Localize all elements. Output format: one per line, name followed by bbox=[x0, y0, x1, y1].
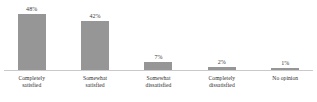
bars-container: 48% 42% 7% 2% 1% bbox=[0, 0, 317, 70]
category-label-completely-dissatisfied: Completely dissatisfied bbox=[190, 71, 253, 90]
bar-value-label: 7% bbox=[154, 54, 162, 61]
category-label-line1: No opinion bbox=[254, 75, 317, 82]
category-label-line2: satisfied bbox=[63, 82, 126, 89]
category-label-line1: Completely bbox=[190, 75, 253, 82]
bar-chart: 48% 42% 7% 2% 1% Complet bbox=[0, 0, 317, 102]
category-label-line1: Completely bbox=[0, 75, 63, 82]
category-label-completely-satisfied: Completely satisfied bbox=[0, 71, 63, 90]
category-label-no-opinion: No opinion bbox=[254, 71, 317, 82]
bar-rect[interactable] bbox=[81, 21, 109, 70]
category-label-somewhat-dissatisfied: Somewhat dissatisfied bbox=[127, 71, 190, 90]
category-label-somewhat-satisfied: Somewhat satisfied bbox=[63, 71, 126, 90]
bar-value-label: 2% bbox=[218, 59, 226, 66]
category-label-line2: dissatisfied bbox=[190, 82, 253, 89]
bar-group-completely-dissatisfied[interactable]: 2% bbox=[190, 0, 253, 70]
plot-area: 48% 42% 7% 2% 1% bbox=[0, 0, 317, 70]
bar-group-somewhat-satisfied[interactable]: 42% bbox=[63, 0, 126, 70]
bar-rect[interactable] bbox=[18, 14, 46, 70]
bar-value-label: 48% bbox=[26, 6, 37, 13]
bar-rect[interactable] bbox=[144, 62, 172, 70]
category-label-line2: satisfied bbox=[0, 82, 63, 89]
category-label-line1: Somewhat bbox=[63, 75, 126, 82]
category-label-line2: dissatisfied bbox=[127, 82, 190, 89]
category-labels-container: Completely satisfied Somewhat satisfied … bbox=[0, 71, 317, 102]
bar-group-somewhat-dissatisfied[interactable]: 7% bbox=[127, 0, 190, 70]
bar-value-label: 1% bbox=[281, 60, 289, 67]
bar-group-completely-satisfied[interactable]: 48% bbox=[0, 0, 63, 70]
category-label-line1: Somewhat bbox=[127, 75, 190, 82]
bar-value-label: 42% bbox=[89, 13, 100, 20]
bar-group-no-opinion[interactable]: 1% bbox=[254, 0, 317, 70]
